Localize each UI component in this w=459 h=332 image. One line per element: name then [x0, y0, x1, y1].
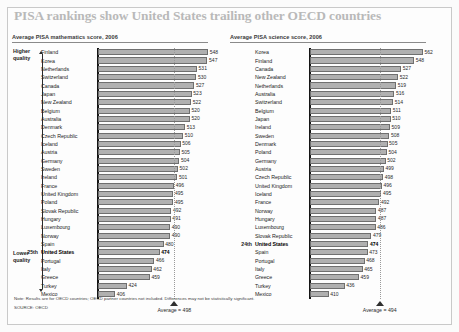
bar	[310, 274, 359, 280]
bar-value-label: 473	[369, 249, 377, 255]
chart-title-mathematics: Average PISA mathematics score, 2006	[12, 34, 208, 43]
bar	[98, 233, 170, 239]
bar-value-label: 505	[389, 140, 397, 146]
bar-value-label: 504	[388, 149, 396, 155]
bar-value-label: 486	[377, 224, 385, 230]
bar-chart-science: Korea562Finland548Canada527New Zealand52…	[230, 48, 438, 298]
bar-value-label: 548	[416, 57, 424, 63]
table-row: Finland548	[12, 48, 220, 56]
bar	[98, 208, 171, 214]
bar	[98, 249, 160, 255]
bar-track: 505	[310, 140, 438, 148]
country-label: Turkey	[255, 283, 271, 289]
bar-track: 424	[98, 282, 220, 290]
bar-track: 502	[98, 165, 220, 173]
bar-track: 501	[98, 173, 220, 181]
table-row: Canada527	[12, 81, 220, 89]
country-label: Poland	[41, 199, 57, 205]
bar	[310, 141, 388, 147]
bar	[310, 49, 423, 55]
triangle-marker-icon	[170, 301, 178, 306]
bar-value-label: 459	[151, 274, 159, 280]
table-row: Mexico410	[230, 290, 438, 298]
bar	[310, 174, 383, 180]
bar-track: 523	[98, 90, 220, 98]
table-row: Norway487	[230, 207, 438, 215]
table-row: Ireland509	[230, 123, 438, 131]
table-row: 25thUnited States474	[12, 248, 220, 256]
table-row: Iceland495	[230, 190, 438, 198]
infographic-page: PISA rankings show United States trailin…	[0, 0, 459, 332]
bar-value-label: 522	[193, 99, 201, 105]
bar	[310, 266, 363, 272]
table-row: Australia516	[230, 90, 438, 98]
country-label: Spain	[255, 249, 268, 255]
table-row: Belgium520	[12, 106, 220, 114]
average-label: Average = 498	[134, 307, 214, 313]
country-label: New Zealand	[41, 99, 72, 105]
country-label: Finland	[41, 49, 58, 55]
table-row: Switzerland530	[12, 73, 220, 81]
bar	[310, 199, 379, 205]
bar	[98, 141, 181, 147]
bar-value-label: 531	[199, 65, 207, 71]
bar-value-label: 496	[384, 182, 392, 188]
bar-track: 504	[98, 156, 220, 164]
country-label: Hungary	[41, 216, 61, 222]
bar	[310, 216, 376, 222]
bar-value-label: 468	[366, 257, 374, 263]
table-row: Denmark505	[230, 140, 438, 148]
bar	[310, 224, 376, 230]
rank-label: 24th	[230, 241, 252, 247]
table-row: Slovak Republic479	[230, 232, 438, 240]
bar-value-label: 495	[175, 190, 183, 196]
bar	[310, 82, 396, 88]
table-row: Spain480	[12, 240, 220, 248]
bar-value-label: 459	[361, 274, 369, 280]
bar-track: 508	[310, 131, 438, 139]
average-guide-line	[380, 48, 381, 299]
chart-panel-science: Average PISA science score, 2006 Korea56…	[230, 34, 438, 298]
bar-track: 548	[310, 56, 438, 64]
table-row: Luxembourg486	[230, 223, 438, 231]
bar-track: 531	[98, 65, 220, 73]
bar-value-label: 474	[370, 241, 378, 247]
bar	[98, 191, 173, 197]
bar	[98, 174, 177, 180]
bar-track: 465	[310, 265, 438, 273]
bar-track: 462	[98, 265, 220, 273]
bar-track: 466	[98, 257, 220, 265]
country-label: Australia	[41, 116, 61, 122]
table-row: Sweden502	[12, 165, 220, 173]
rank-label: 25th	[12, 249, 38, 255]
table-row: Austria505	[12, 148, 220, 156]
bar	[98, 57, 207, 63]
bar-track: 474	[310, 240, 438, 248]
bar-value-label: 495	[383, 190, 391, 196]
bar-track: 513	[98, 123, 220, 131]
country-label: Slovak Republic	[41, 208, 78, 214]
table-row: Italy462	[12, 265, 220, 273]
bar-value-label: 510	[392, 115, 400, 121]
table-row: Germany504	[12, 156, 220, 164]
bar-value-label: 548	[210, 49, 218, 55]
country-label: France	[255, 199, 271, 205]
bar-track: 510	[310, 115, 438, 123]
bar	[310, 166, 384, 172]
bar-track: 547	[98, 56, 220, 64]
bar	[310, 66, 401, 72]
bar	[310, 158, 386, 164]
country-label: Italy	[41, 266, 50, 272]
bar-value-label: 505	[182, 149, 190, 155]
country-label: Germany	[41, 158, 62, 164]
bar-value-label: 508	[391, 132, 399, 138]
bar-track: 520	[98, 106, 220, 114]
footnote: Note: Results are for OECD countries; OE…	[14, 296, 255, 301]
bar	[98, 274, 150, 280]
bar	[98, 283, 127, 289]
bar-track: 562	[310, 48, 438, 56]
table-row: New Zealand522	[12, 98, 220, 106]
table-row: France496	[12, 182, 220, 190]
bar-track: 473	[310, 248, 438, 256]
country-label: Czech Republic	[41, 133, 77, 139]
